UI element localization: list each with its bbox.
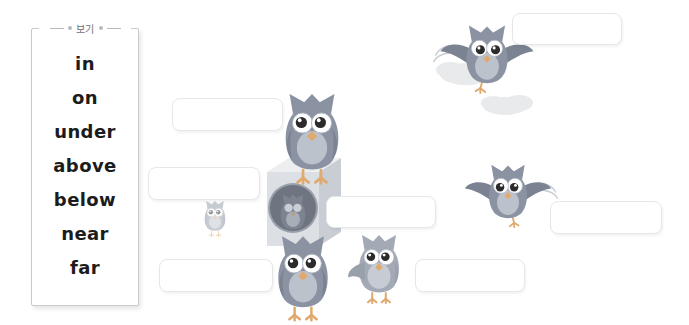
owl-under-box — [278, 236, 327, 320]
blank-in[interactable] — [326, 196, 436, 228]
word-bank-label-text: 보기 — [76, 21, 95, 36]
blank-below[interactable] — [415, 259, 525, 292]
owl-far-left — [205, 201, 226, 236]
blank-far[interactable] — [148, 167, 260, 200]
blank-above[interactable] — [512, 13, 622, 45]
header-rule-left — [50, 28, 64, 29]
header-rule-right — [107, 28, 121, 29]
owl-flying-right — [465, 165, 557, 227]
owl-in-window — [281, 194, 305, 229]
blank-near[interactable] — [550, 201, 662, 234]
word-bank-header: 보기 — [39, 19, 131, 37]
illustration-scene — [0, 0, 689, 325]
header-dot-left — [68, 26, 72, 30]
header-dot-right — [99, 26, 103, 30]
owl-beside-box — [348, 235, 399, 303]
blank-under[interactable] — [159, 259, 273, 292]
worksheet-canvas: 보기 in on under above below near far — [0, 0, 689, 325]
blank-on[interactable] — [172, 98, 283, 131]
cloud-lower — [481, 95, 533, 115]
